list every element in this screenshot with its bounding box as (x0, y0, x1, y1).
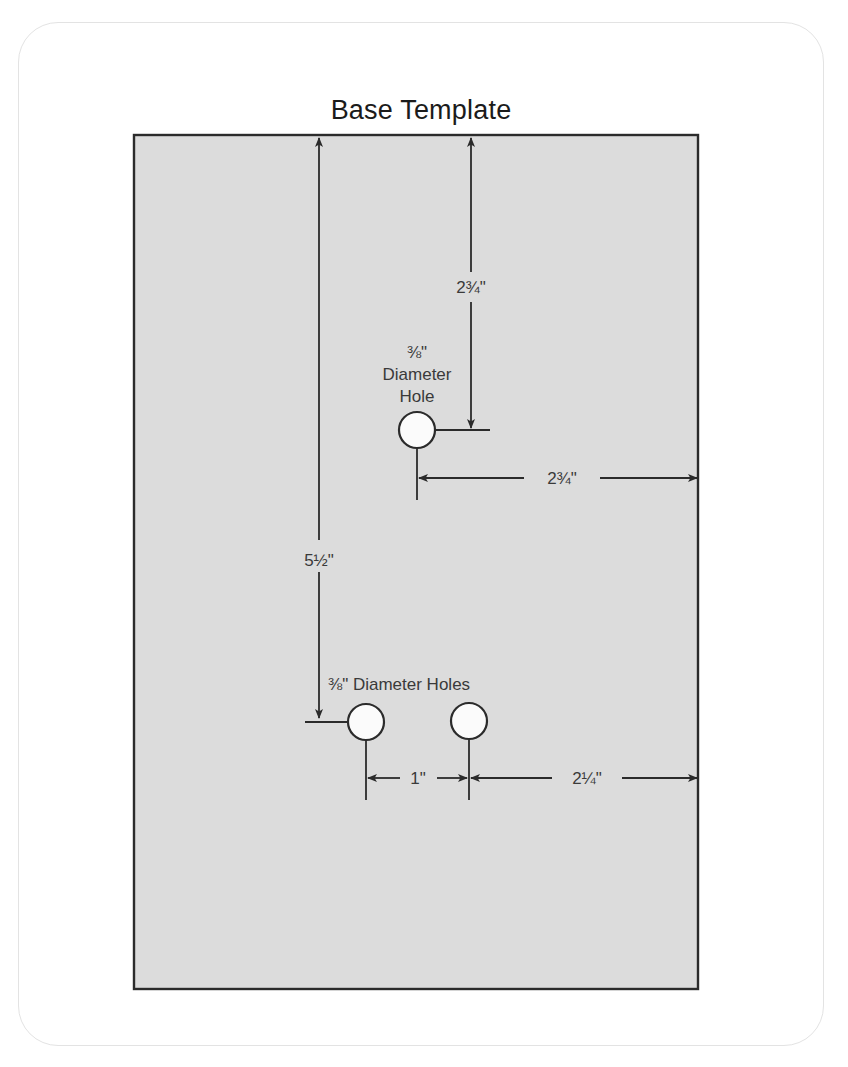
top-hole-note-line1: ⅜" (407, 343, 427, 362)
dim-label-left-vertical: 5½" (304, 551, 334, 570)
dim-label-right-bottom-horizontal: 2¼" (572, 769, 602, 788)
top-hole-note-line3: Hole (400, 387, 435, 406)
plate-rectangle (134, 135, 698, 989)
dim-label-top-vertical: 2¾" (456, 278, 486, 297)
bottom-left-hole (348, 704, 384, 740)
bottom-holes-note: ⅜" Diameter Holes (328, 675, 470, 694)
dim-label-between-holes: 1" (410, 769, 426, 788)
technical-drawing: 2¾" ⅜" Diameter Hole 2¾" 5½" ⅜" Diameter… (0, 0, 848, 1067)
page-root: Base Template 2¾" ⅜" Diameter Hole 2¾" (0, 0, 848, 1067)
bottom-right-hole (451, 703, 487, 739)
top-center-hole (399, 412, 435, 448)
dim-label-right-horizontal: 2¾" (547, 469, 577, 488)
top-hole-note-line2: Diameter (383, 365, 452, 384)
